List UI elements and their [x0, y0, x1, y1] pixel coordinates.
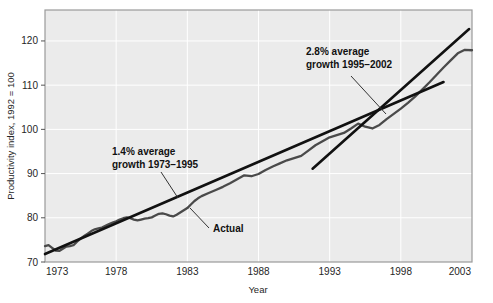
- x-tick-label-1993: 1993: [319, 266, 342, 277]
- x-tick-label-1998: 1998: [390, 266, 413, 277]
- y-tick-label-110: 110: [22, 80, 38, 91]
- y-tick-label-90: 90: [27, 168, 39, 179]
- y-axis-title: Productivity index, 1992 = 100: [5, 72, 16, 200]
- annotation-1-4-percent-line1: 1.4% average: [112, 146, 176, 157]
- y-axis-tick-labels: 708090100110120: [21, 35, 38, 267]
- y-tick-label-100: 100: [21, 124, 38, 135]
- x-tick-label-1978: 1978: [105, 266, 128, 277]
- x-axis-tick-labels: 1973197819831988199319982003: [46, 266, 471, 277]
- annotation-2-8-percent-line1: 2.8% average: [306, 46, 370, 57]
- x-tick-label-1983: 1983: [176, 266, 199, 277]
- y-tick-label-70: 70: [27, 257, 39, 268]
- x-tick-label-1988: 1988: [247, 266, 270, 277]
- x-tick-label-2003: 2003: [449, 266, 472, 277]
- productivity-chart: 708090100110120 197319781983198819931998…: [0, 0, 493, 303]
- annotation-2-8-percent-line2: growth 1995–2002: [306, 59, 393, 70]
- x-axis-title: Year: [248, 284, 267, 295]
- y-tick-label-120: 120: [21, 35, 38, 46]
- y-tick-label-80: 80: [27, 212, 39, 223]
- chart-figure: 708090100110120 197319781983198819931998…: [0, 0, 493, 303]
- annotation-actual-line1: Actual: [213, 223, 244, 234]
- annotation-1-4-percent-line2: growth 1973–1995: [112, 159, 199, 170]
- x-tick-label-1973: 1973: [46, 266, 69, 277]
